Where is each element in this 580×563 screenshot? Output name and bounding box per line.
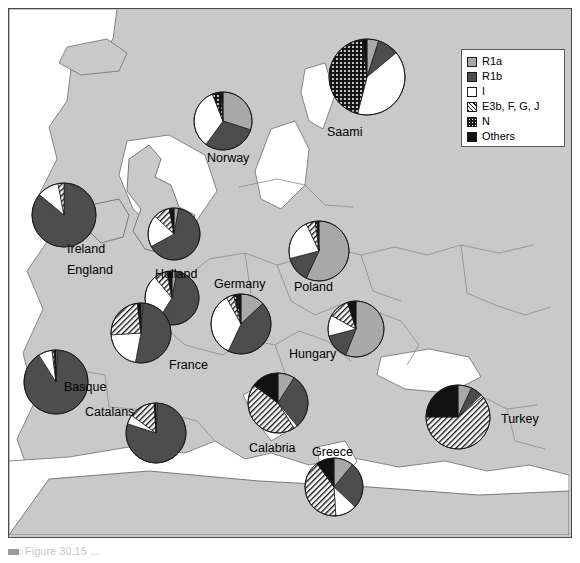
population-label-basque: Basque xyxy=(64,381,106,394)
population-label-calabria: Calabria xyxy=(249,442,296,455)
europe-map: R1a R1b I E3b, F, G, J N Others xyxy=(8,8,572,538)
legend-swatch-r1a xyxy=(467,57,477,67)
pie-slice-i xyxy=(111,333,141,362)
legend-item-others: Others xyxy=(467,129,559,144)
population-label-poland: Poland xyxy=(294,281,333,294)
legend-label-i: I xyxy=(482,86,485,97)
pie-chart-greece xyxy=(303,456,365,518)
legend-item-r1a: R1a xyxy=(467,54,559,69)
pie-chart-ireland xyxy=(30,181,98,249)
population-label-ireland: Ireland xyxy=(67,243,105,256)
population-label-hungary: Hungary xyxy=(289,348,336,361)
figure-caption: Figure 30.15 ... xyxy=(8,545,308,559)
legend-label-r1a: R1a xyxy=(482,56,502,67)
pie-chart-turkey xyxy=(424,383,492,451)
population-label-england: England xyxy=(67,264,113,277)
pie-slice-e3b-f-g-j xyxy=(111,303,141,335)
population-label-catalans: Catalans xyxy=(85,406,134,419)
pie-chart-norway xyxy=(192,90,254,152)
legend-swatch-n xyxy=(467,117,477,127)
legend-item-r1b: R1b xyxy=(467,69,559,84)
pie-chart-germany xyxy=(209,292,273,356)
legend-swatch-e3b xyxy=(467,102,477,112)
legend-label-others: Others xyxy=(482,131,515,142)
legend-swatch-others xyxy=(467,132,477,142)
pie-chart-calabria xyxy=(246,371,310,435)
figure-root: R1a R1b I E3b, F, G, J N Others xyxy=(0,0,580,563)
legend-swatch-r1b xyxy=(467,72,477,82)
pie-chart-france xyxy=(109,301,173,365)
population-label-holland: Holland xyxy=(155,268,197,281)
population-label-greece: Greece xyxy=(312,446,353,459)
legend-item-n: N xyxy=(467,114,559,129)
pie-chart-saami xyxy=(327,37,407,117)
legend-swatch-i xyxy=(467,87,477,97)
population-label-germany: Germany xyxy=(214,278,265,291)
legend-label-r1b: R1b xyxy=(482,71,502,82)
caption-swatch xyxy=(8,549,19,555)
legend-label-n: N xyxy=(482,116,490,127)
legend-label-e3b: E3b, F, G, J xyxy=(482,101,539,112)
legend-item-e3b: E3b, F, G, J xyxy=(467,99,559,114)
caption-text: Figure 30.15 ... xyxy=(25,545,99,557)
population-label-turkey: Turkey xyxy=(501,413,539,426)
pie-chart-poland xyxy=(287,219,351,283)
pie-chart-england xyxy=(146,206,202,262)
legend: R1a R1b I E3b, F, G, J N Others xyxy=(461,49,565,147)
population-label-france: France xyxy=(169,359,208,372)
legend-item-i: I xyxy=(467,84,559,99)
population-label-saami: Saami xyxy=(327,126,362,139)
population-label-norway: Norway xyxy=(207,152,249,165)
